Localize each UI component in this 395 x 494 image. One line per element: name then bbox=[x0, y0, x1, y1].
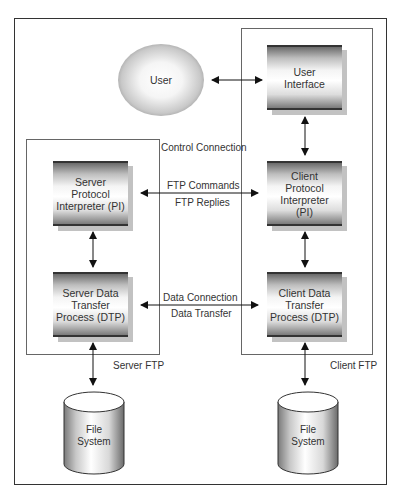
data-transfer-label: Data Transfer bbox=[171, 308, 232, 319]
server-file-system-label: File System bbox=[64, 424, 124, 448]
client-ftp-label: Client FTP bbox=[330, 360, 377, 371]
data-connection-label: Data Connection bbox=[163, 292, 238, 303]
ftp-commands-label: FTP Commands bbox=[167, 180, 240, 191]
client-file-system-label: File System bbox=[278, 424, 338, 448]
server-ftp-label: Server FTP bbox=[113, 360, 164, 371]
control-connection-label: Control Connection bbox=[161, 142, 247, 153]
diagram-graphics bbox=[0, 0, 395, 494]
ftp-replies-label: FTP Replies bbox=[175, 197, 230, 208]
